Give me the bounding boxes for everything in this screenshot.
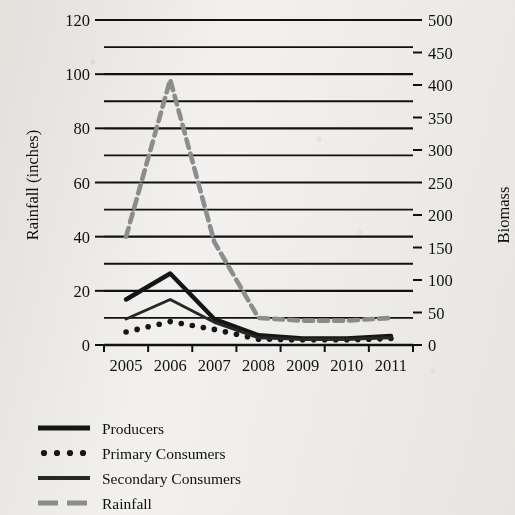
data-point-dot bbox=[201, 325, 207, 331]
y2-tick-label: 100 bbox=[428, 271, 453, 290]
y2-axis-title-biomass: Biomass bbox=[494, 187, 513, 244]
legend-label: Rainfall bbox=[102, 495, 152, 512]
legend-item: Producers bbox=[38, 420, 164, 437]
y-tick-label: 20 bbox=[74, 282, 91, 301]
x-tick-label: 2005 bbox=[110, 356, 143, 375]
legend-item: Rainfall bbox=[38, 495, 152, 512]
y2-tick-label: 0 bbox=[428, 336, 436, 355]
x-axis: 2005200620072008200920102011 bbox=[104, 345, 413, 375]
data-point-dot bbox=[145, 324, 151, 330]
data-point-dot bbox=[123, 329, 129, 335]
chart-figure: 020406080100120 050100150200250300350400… bbox=[0, 0, 515, 515]
y2-tick-label: 350 bbox=[428, 109, 453, 128]
legend-label: Primary Consumers bbox=[102, 445, 226, 462]
legend-label: Producers bbox=[102, 420, 164, 437]
data-point-dot bbox=[156, 321, 162, 327]
legend-label: Secondary Consumers bbox=[102, 470, 241, 487]
x-tick-label: 2006 bbox=[154, 356, 187, 375]
y2-tick-label: 150 bbox=[428, 239, 453, 258]
y-tick-label: 120 bbox=[65, 11, 90, 30]
y-tick-label: 60 bbox=[74, 174, 91, 193]
y-tick-label: 40 bbox=[74, 228, 91, 247]
x-tick-label: 2011 bbox=[375, 356, 407, 375]
x-tick-label: 2010 bbox=[330, 356, 363, 375]
chart-legend: ProducersPrimary ConsumersSecondary Cons… bbox=[38, 420, 241, 512]
legend-item: Primary Consumers bbox=[41, 445, 226, 462]
series-layer bbox=[123, 80, 393, 343]
series-line bbox=[126, 80, 391, 321]
gridlines bbox=[104, 20, 413, 318]
legend-swatch-dot bbox=[67, 450, 73, 456]
right-axis: 050100150200250300350400450500 bbox=[413, 11, 453, 355]
data-point-dot bbox=[178, 321, 184, 327]
series-line bbox=[126, 274, 391, 339]
legend-swatch-dot bbox=[80, 450, 86, 456]
x-tick-label: 2007 bbox=[198, 356, 231, 375]
x-tick-label: 2009 bbox=[286, 356, 319, 375]
y2-tick-label: 300 bbox=[428, 141, 453, 160]
y2-tick-label: 500 bbox=[428, 11, 453, 30]
y-axis-title-rainfall: Rainfall (inches) bbox=[23, 130, 42, 240]
legend-item: Secondary Consumers bbox=[38, 470, 241, 487]
y-tick-label: 80 bbox=[74, 119, 91, 138]
rainfall-biomass-line-chart: 020406080100120 050100150200250300350400… bbox=[0, 0, 515, 515]
x-tick-label: 2008 bbox=[242, 356, 275, 375]
data-point-dot bbox=[167, 319, 173, 325]
data-point-dot bbox=[223, 329, 229, 335]
y2-tick-label: 50 bbox=[428, 304, 445, 323]
data-point-dot bbox=[212, 327, 218, 333]
data-point-dot bbox=[134, 327, 140, 333]
legend-swatch-dot bbox=[41, 450, 47, 456]
y2-tick-label: 250 bbox=[428, 174, 453, 193]
y2-tick-label: 400 bbox=[428, 76, 453, 95]
data-point-dot bbox=[189, 323, 195, 329]
y2-tick-label: 200 bbox=[428, 206, 453, 225]
left-axis: 020406080100120 bbox=[65, 11, 104, 355]
y-tick-label: 100 bbox=[65, 65, 90, 84]
legend-swatch-dot bbox=[54, 450, 60, 456]
y2-tick-label: 450 bbox=[428, 44, 453, 63]
y-tick-label: 0 bbox=[82, 336, 90, 355]
